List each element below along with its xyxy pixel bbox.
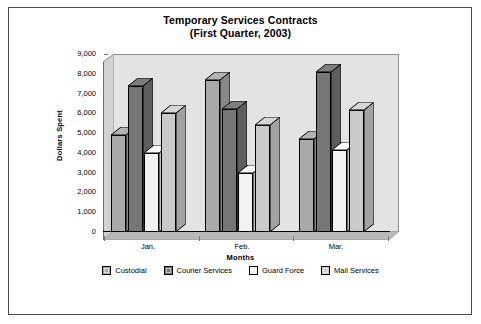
bar-top-face [128, 78, 153, 86]
y-axis-tick-label: 0 [56, 228, 96, 236]
y-axis-tick-label: 3,000 [56, 169, 96, 177]
bar-side-face [270, 117, 280, 232]
bar-top-face [222, 101, 247, 109]
bar-top-face [161, 105, 186, 113]
x-axis-tick-label: Jan. [118, 242, 178, 251]
plot-area-3d [103, 54, 399, 240]
plot-container: Dollars Spent 9,0008,0007,0006,0005,0004… [0, 0, 481, 324]
legend-item-label: Custodial [115, 266, 146, 275]
bar-front-face [205, 80, 220, 232]
legend-item-guard-force[interactable]: Guard Force [249, 266, 304, 275]
y-axis-tick-label: 9,000 [56, 50, 96, 58]
bar-front-face [299, 139, 314, 232]
legend-item-custodial[interactable]: Custodial [102, 266, 146, 275]
bar-front-face [222, 109, 237, 232]
chart-page: Temporary Services Contracts (First Quar… [0, 0, 481, 324]
bar-mail-services-mar [349, 110, 364, 232]
bar-front-face [128, 86, 143, 232]
legend-item-mail-services[interactable]: Mail Services [321, 266, 379, 275]
bar-custodial-jan [111, 135, 126, 232]
bar-front-face [111, 135, 126, 232]
y-axis-tick-label: 1,000 [56, 208, 96, 216]
legend-swatch-icon [249, 266, 258, 275]
legend-item-courier-services[interactable]: Courier Services [164, 266, 232, 275]
x-axis-tick-mark [388, 236, 389, 241]
bar-courier-services-feb [222, 109, 237, 232]
legend-item-label: Guard Force [262, 266, 304, 275]
y-axis-tick-label: 7,000 [56, 90, 96, 98]
bar-side-face [176, 105, 186, 232]
x-axis-tick-mark [104, 236, 105, 241]
y-axis-tick-label: 5,000 [56, 129, 96, 137]
x-axis-title: Months [0, 253, 481, 262]
bar-mail-services-feb [255, 125, 270, 232]
bar-front-face [161, 113, 176, 232]
bar-top-face [255, 117, 280, 125]
bar-custodial-mar [299, 139, 314, 232]
bar-top-face [205, 72, 230, 80]
x-axis-tick-label: Mar. [306, 242, 366, 251]
bar-guard-force-feb [238, 173, 253, 232]
bar-mail-services-jan [161, 113, 176, 232]
legend-swatch-icon [102, 266, 111, 275]
bar-top-face [349, 102, 374, 110]
y-axis-tick-label: 2,000 [56, 188, 96, 196]
bar-front-face [349, 110, 364, 232]
chart-legend: CustodialCourier ServicesGuard ForceMail… [0, 266, 481, 275]
bar-courier-services-jan [128, 86, 143, 232]
bar-side-face [364, 102, 374, 232]
bar-custodial-feb [205, 80, 220, 232]
y-axis-tick-labels: 9,0008,0007,0006,0005,0004,0003,0002,000… [58, 50, 100, 242]
bar-guard-force-jan [144, 153, 159, 232]
bar-front-face [255, 125, 270, 232]
x-axis-tick-mark [199, 236, 200, 241]
bar-guard-force-mar [332, 150, 347, 232]
y-axis-tick-label: 6,000 [56, 109, 96, 117]
legend-swatch-icon [164, 266, 173, 275]
x-axis-tick-label: Feb. [212, 242, 272, 251]
y-axis-line [103, 62, 104, 240]
bar-courier-services-mar [316, 72, 331, 232]
legend-item-label: Mail Services [334, 266, 379, 275]
y-axis-tick-label: 4,000 [56, 149, 96, 157]
legend-swatch-icon [321, 266, 330, 275]
y-axis-tick-label: 8,000 [56, 70, 96, 78]
legend-item-label: Courier Services [177, 266, 232, 275]
x-axis-line [103, 231, 390, 232]
bar-front-face [332, 150, 347, 232]
bar-front-face [144, 153, 159, 232]
bar-front-face [238, 173, 253, 232]
bar-top-face [316, 64, 341, 72]
bar-front-face [316, 72, 331, 232]
plot-floor [103, 231, 399, 240]
x-axis-tick-mark [293, 236, 294, 241]
